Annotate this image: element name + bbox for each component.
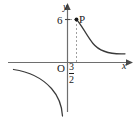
point-p-label: P: [79, 14, 85, 25]
hyperbola-graph-figure: y x 6 O P 3 2: [0, 0, 134, 120]
fraction-numerator: 3: [69, 62, 74, 73]
x-tick-label-fraction: 3 2: [69, 62, 74, 86]
fraction-denominator: 2: [69, 75, 74, 86]
origin-label: O: [57, 63, 65, 74]
x-axis-arrowhead: [126, 59, 133, 65]
point-p-marker: [75, 18, 79, 22]
y-axis-label: y: [63, 2, 67, 12]
graph-canvas: [0, 0, 134, 120]
hyperbola-branch-quadrant-three: [14, 70, 63, 117]
x-axis-label: x: [122, 61, 126, 71]
y-tick-label-six: 6: [57, 15, 63, 26]
